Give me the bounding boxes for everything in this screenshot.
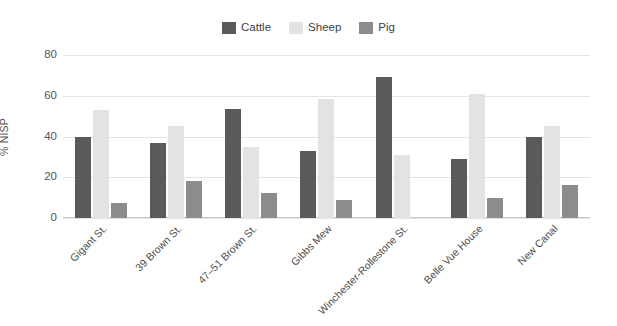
bar-pig[interactable] bbox=[562, 185, 578, 218]
y-axis: % NISP 020406080 bbox=[12, 55, 57, 218]
legend-label: Sheep bbox=[308, 22, 341, 34]
x-axis-tick-label: Gigant St. bbox=[68, 223, 109, 264]
bar-group bbox=[63, 55, 138, 218]
bar-groups bbox=[63, 55, 590, 218]
y-axis-tick-label: 0 bbox=[17, 212, 57, 224]
x-axis-label-cell: 47–51 Brown St. bbox=[214, 219, 289, 319]
x-axis-label-cell: New Canal bbox=[515, 219, 590, 319]
bar-sheep[interactable] bbox=[93, 110, 109, 218]
bar-group bbox=[515, 55, 590, 218]
bar-cattle[interactable] bbox=[451, 159, 467, 218]
y-axis-tick-label: 20 bbox=[17, 172, 57, 184]
legend-swatch-icon bbox=[359, 22, 373, 34]
legend-swatch-icon bbox=[222, 22, 236, 34]
x-axis-labels: Gigant St.39 Brown St.47–51 Brown St.Gib… bbox=[63, 219, 590, 319]
bar-cattle[interactable] bbox=[75, 137, 91, 219]
bar-chart: CattleSheepPig % NISP 020406080 Gigant S… bbox=[0, 0, 617, 326]
legend-item-pig[interactable]: Pig bbox=[359, 22, 395, 34]
bar-pig[interactable] bbox=[487, 198, 503, 218]
y-axis-tick-label: 60 bbox=[17, 90, 57, 102]
bar-cattle[interactable] bbox=[376, 77, 392, 218]
legend-item-cattle[interactable]: Cattle bbox=[222, 22, 271, 34]
bar-sheep[interactable] bbox=[544, 126, 560, 218]
y-axis-title: % NISP bbox=[0, 118, 10, 156]
x-axis-label-cell: Belle Vue House bbox=[439, 219, 514, 319]
bar-group bbox=[364, 55, 439, 218]
bar-set bbox=[439, 55, 514, 218]
x-axis-tick-label: Gibbs Mew bbox=[289, 223, 334, 268]
bar-sheep[interactable] bbox=[168, 126, 184, 218]
bar-cattle[interactable] bbox=[225, 109, 241, 218]
x-axis-label-cell: Gigant St. bbox=[63, 219, 138, 319]
x-axis-tick-label: 39 Brown St. bbox=[133, 223, 184, 274]
chart-legend: CattleSheepPig bbox=[0, 22, 617, 34]
plot-area bbox=[63, 55, 590, 218]
bar-pig[interactable] bbox=[261, 193, 277, 218]
bar-group bbox=[439, 55, 514, 218]
x-axis-tick-label: New Canal bbox=[516, 223, 560, 267]
legend-label: Cattle bbox=[241, 22, 271, 34]
bar-sheep[interactable] bbox=[318, 99, 334, 218]
bar-pig[interactable] bbox=[336, 200, 352, 218]
bar-sheep[interactable] bbox=[243, 147, 259, 218]
bar-group bbox=[138, 55, 213, 218]
bar-cattle[interactable] bbox=[526, 137, 542, 219]
bar-pig[interactable] bbox=[111, 203, 127, 218]
bar-pig[interactable] bbox=[186, 181, 202, 218]
bar-cattle[interactable] bbox=[300, 151, 316, 218]
bar-set bbox=[138, 55, 213, 218]
y-axis-tick-label: 80 bbox=[17, 49, 57, 61]
bar-set bbox=[364, 55, 439, 218]
bar-sheep[interactable] bbox=[394, 155, 410, 218]
bar-group bbox=[289, 55, 364, 218]
y-axis-tick-label: 40 bbox=[17, 131, 57, 143]
legend-swatch-icon bbox=[289, 22, 303, 34]
bar-set bbox=[63, 55, 138, 218]
legend-item-sheep[interactable]: Sheep bbox=[289, 22, 341, 34]
bar-set bbox=[214, 55, 289, 218]
bar-cattle[interactable] bbox=[150, 143, 166, 218]
bar-group bbox=[214, 55, 289, 218]
legend-label: Pig bbox=[378, 22, 395, 34]
bar-set bbox=[515, 55, 590, 218]
bar-sheep[interactable] bbox=[469, 94, 485, 218]
bar-set bbox=[289, 55, 364, 218]
